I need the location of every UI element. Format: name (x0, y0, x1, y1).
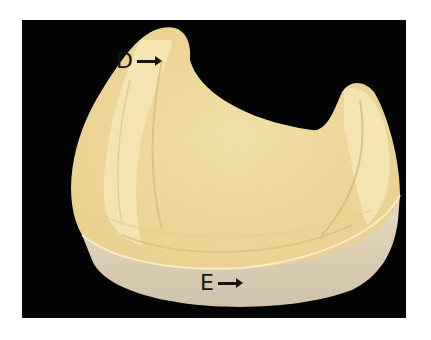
label-e: E (200, 272, 238, 294)
label-d: D (116, 50, 157, 72)
label-e-letter: E (200, 272, 214, 294)
right-arrow-icon (137, 60, 157, 63)
photo-frame: D E (22, 20, 406, 318)
label-d-letter: D (116, 50, 133, 72)
right-arrow-icon (218, 282, 238, 285)
